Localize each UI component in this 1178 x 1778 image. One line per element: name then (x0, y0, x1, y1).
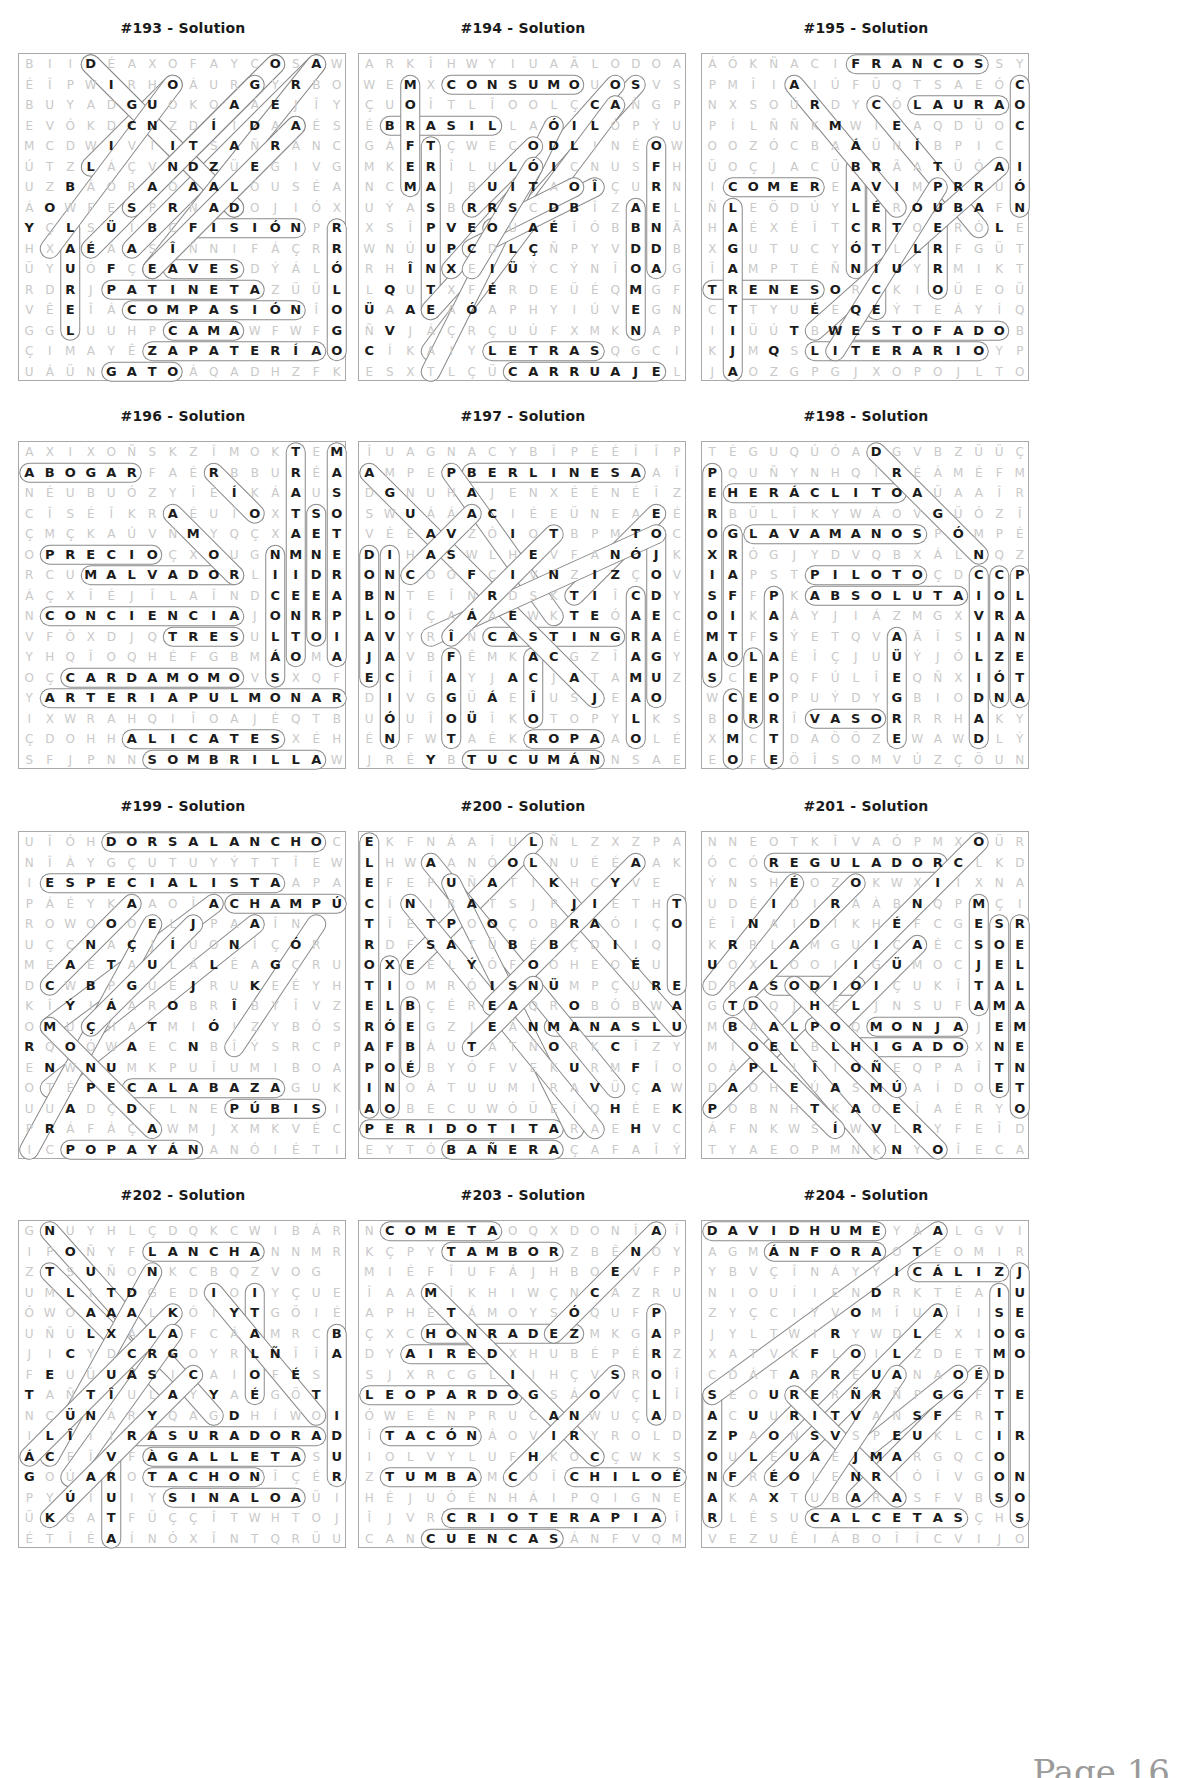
grid-letter: P (743, 565, 764, 586)
grid-letter: U (60, 1017, 81, 1038)
grid-letter: U (101, 1365, 122, 1386)
grid-letter: U (142, 955, 163, 976)
grid-letter: G (764, 545, 785, 566)
grid-letter: R (421, 1365, 442, 1386)
grid-letter: É (667, 1467, 688, 1488)
grid-letter: U (400, 504, 421, 525)
grid-letter: Î (784, 1262, 805, 1283)
grid-letter: H (400, 1303, 421, 1324)
grid-letter: Î (805, 1058, 826, 1079)
grid-letter: E (359, 1140, 380, 1161)
grid-letter: M (564, 976, 585, 997)
grid-letter: M (19, 136, 40, 157)
grid-letter: I (286, 565, 307, 586)
grid-letter: Ó (482, 853, 503, 874)
grid-letter: F (245, 239, 266, 260)
grid-letter: Ö (764, 198, 785, 219)
grid-letter: P (585, 524, 606, 545)
grid-letter: M (743, 259, 764, 280)
grid-letter: U (441, 1037, 462, 1058)
grid-letter: N (907, 1017, 928, 1038)
grid-letter: É (265, 709, 286, 730)
grid-letter: Î (907, 1099, 928, 1120)
grid-letter: C (122, 873, 143, 894)
grid-letter: O (523, 136, 544, 157)
grid-letter: E (101, 873, 122, 894)
grid-letter: Y (887, 1221, 908, 1242)
grid-letter: Î (482, 709, 503, 730)
grid-letter: S (224, 627, 245, 648)
grid-letter: B (60, 177, 81, 198)
grid-letter: B (40, 463, 61, 484)
grid-letter: L (825, 483, 846, 504)
grid-letter: V (142, 524, 163, 545)
grid-letter: A (60, 1099, 81, 1120)
grid-letter: R (462, 996, 483, 1017)
grid-letter: O (327, 75, 348, 96)
grid-letter: R (19, 1037, 40, 1058)
grid-letter: I (163, 729, 184, 750)
grid-letter: V (605, 239, 626, 260)
grid-letter: Ó (60, 116, 81, 137)
grid-letter: X (400, 1365, 421, 1386)
grid-letter: O (928, 955, 949, 976)
grid-letter: L (887, 239, 908, 260)
grid-letter: O (523, 1467, 544, 1488)
grid-letter: I (846, 606, 867, 627)
grid-letter: R (702, 504, 723, 525)
grid-letter: X (605, 832, 626, 853)
grid-letter: A (204, 1140, 225, 1161)
grid-letter: C (805, 157, 826, 178)
grid-letter: D (969, 321, 990, 342)
grid-letter: Z (989, 1262, 1010, 1283)
grid-letter: M (400, 75, 421, 96)
grid-letter: C (60, 1344, 81, 1365)
grid-letter: Î (948, 976, 969, 997)
grid-letter: O (1010, 1488, 1031, 1509)
grid-letter: O (1010, 1099, 1031, 1120)
grid-letter: R (306, 606, 327, 627)
grid-letter: T (224, 341, 245, 362)
grid-letter: W (585, 1406, 606, 1427)
grid-letter: S (702, 668, 723, 689)
grid-letter: Z (667, 668, 688, 689)
grid-letter: N (142, 1262, 163, 1283)
grid-letter: A (359, 463, 380, 484)
grid-letter: C (989, 136, 1010, 157)
grid-letter: Ö (286, 1385, 307, 1406)
grid-letter: R (887, 341, 908, 362)
grid-letter: L (142, 1242, 163, 1263)
grid-letter: J (846, 362, 867, 383)
grid-letter: A (327, 586, 348, 607)
grid-letter: I (585, 136, 606, 157)
grid-letter: X (265, 524, 286, 545)
grid-letter: O (626, 1426, 647, 1447)
grid-letter: O (163, 75, 184, 96)
grid-letter: S (163, 1488, 184, 1509)
grid-letter: R (327, 688, 348, 709)
grid-letter: R (19, 914, 40, 935)
grid-letter: Ó (380, 1017, 401, 1038)
grid-letter: E (866, 1221, 887, 1242)
grid-letter: A (928, 729, 949, 750)
grid-letter: É (928, 935, 949, 956)
grid-letter: Ç (40, 668, 61, 689)
grid-letter: R (764, 709, 785, 730)
grid-letter: N (380, 586, 401, 607)
grid-letter: A (122, 729, 143, 750)
grid-letter: L (948, 1426, 969, 1447)
grid-letter: Î (626, 1037, 647, 1058)
grid-letter: E (989, 1017, 1010, 1038)
grid-letter: B (887, 545, 908, 566)
grid-letter: F (60, 1447, 81, 1468)
grid-letter: I (523, 873, 544, 894)
grid-letter: C (224, 894, 245, 915)
grid-letter: J (928, 647, 949, 668)
grid-letter: I (723, 606, 744, 627)
grid-letter: J (265, 198, 286, 219)
grid-letter: P (81, 1078, 102, 1099)
grid-letter: C (702, 300, 723, 321)
grid-letter: E (19, 116, 40, 137)
grid-letter: T (421, 280, 442, 301)
grid-letter: G (646, 647, 667, 668)
